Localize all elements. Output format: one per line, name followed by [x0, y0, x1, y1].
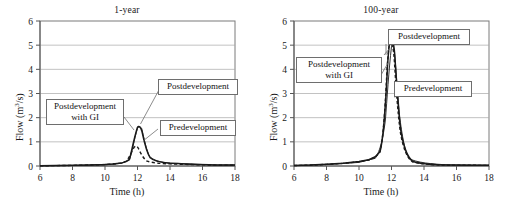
- y-axis-title-right-pre: Flow (m: [268, 107, 279, 141]
- chart-panel-1-year: 1-year: [0, 0, 254, 209]
- callout-line1: Postdevelopment: [54, 101, 116, 111]
- y-axis-title-right-sup: 3: [267, 103, 275, 107]
- svg-text:4: 4: [282, 65, 287, 75]
- svg-text:18: 18: [484, 173, 494, 183]
- svg-text:6: 6: [292, 173, 297, 183]
- y-tick-labels-left: 6 5 4 3 2 1 0: [28, 17, 33, 172]
- y-axis-title-left: Flow (m3/s): [13, 93, 25, 141]
- svg-text:14: 14: [165, 173, 175, 183]
- x-axis-title-left: Time (h): [0, 186, 254, 197]
- svg-text:1: 1: [282, 137, 287, 147]
- svg-text:10: 10: [354, 173, 364, 183]
- svg-text:10: 10: [100, 173, 110, 183]
- svg-text:2: 2: [28, 113, 33, 123]
- svg-text:4: 4: [28, 65, 33, 75]
- svg-text:0: 0: [28, 162, 33, 172]
- svg-text:5: 5: [28, 41, 33, 51]
- y-axis-right: [290, 21, 294, 166]
- callout-line1: Postdevelopment: [308, 59, 370, 69]
- callout-postdevelopment-right: Postdevelopment: [388, 29, 470, 45]
- svg-text:6: 6: [28, 17, 33, 27]
- svg-text:12: 12: [387, 173, 397, 183]
- y-axis-title-right-post: /s): [268, 93, 279, 103]
- callout-postdevelopment-left: Postdevelopment: [158, 79, 238, 95]
- svg-text:6: 6: [282, 17, 287, 27]
- svg-text:5: 5: [282, 41, 287, 51]
- x-axis-right: [294, 166, 489, 170]
- y-axis-title-right: Flow (m3/s): [267, 93, 279, 141]
- y-tick-labels-right: 6 5 4 3 2 1 0: [282, 17, 287, 172]
- y-axis-left: [36, 21, 40, 166]
- svg-text:0: 0: [282, 162, 287, 172]
- svg-text:8: 8: [70, 173, 75, 183]
- y-axis-title-left-pre: Flow (m: [14, 107, 25, 141]
- svg-text:14: 14: [419, 173, 429, 183]
- y-axis-title-left-post: /s): [14, 93, 25, 103]
- svg-text:16: 16: [198, 173, 208, 183]
- svg-text:3: 3: [28, 89, 33, 99]
- x-axis-title-right: Time (h): [254, 186, 508, 197]
- x-tick-labels-left: 6 8 10 12 14 16 18: [38, 173, 240, 183]
- callout-postdevelopment-with-gi-right: Postdevelopment with GI: [296, 57, 382, 83]
- svg-text:18: 18: [230, 173, 240, 183]
- callout-predevelopment-right: Predevelopment: [394, 81, 472, 97]
- svg-text:1: 1: [28, 137, 33, 147]
- svg-text:6: 6: [38, 173, 43, 183]
- callout-predevelopment-left: Predevelopment: [160, 120, 236, 136]
- svg-text:12: 12: [133, 173, 143, 183]
- svg-text:8: 8: [324, 173, 329, 183]
- figure-container: 1-year: [0, 0, 508, 209]
- svg-text:2: 2: [282, 113, 287, 123]
- callout-line1: Predevelopment: [169, 122, 227, 132]
- callout-line2: with GI: [325, 70, 353, 80]
- svg-text:3: 3: [282, 89, 287, 99]
- svg-text:16: 16: [452, 173, 462, 183]
- y-axis-title-left-sup: 3: [13, 103, 21, 107]
- callout-line2: with GI: [71, 112, 99, 122]
- x-tick-labels-right: 6 8 10 12 14 16 18: [292, 173, 494, 183]
- x-axis-left: [40, 166, 235, 170]
- callout-postdevelopment-with-gi-left: Postdevelopment with GI: [46, 99, 124, 125]
- callout-line1: Postdevelopment: [398, 31, 460, 41]
- callout-line1: Postdevelopment: [167, 81, 229, 91]
- plot-svg-left: 6 5 4 3 2 1 0 6 8 10 12 14 16 18: [0, 0, 254, 209]
- chart-panel-100-year: 100-year: [254, 0, 508, 209]
- callout-line1: Predevelopment: [404, 83, 462, 93]
